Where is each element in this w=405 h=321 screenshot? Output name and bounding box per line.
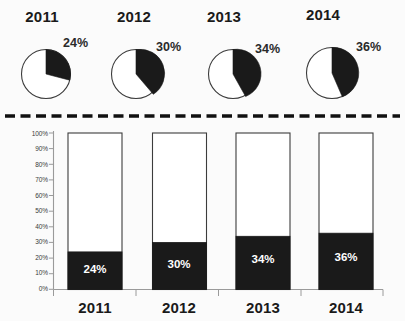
y-axis-ticks bbox=[49, 133, 54, 289]
bar-value-label-2013: 34% bbox=[233, 253, 293, 265]
bar-value-label-2014: 36% bbox=[316, 251, 376, 263]
bar-value-label-2012: 30% bbox=[149, 258, 209, 270]
x-axis-label-2013: 2013 bbox=[228, 299, 298, 316]
x-axis-ticks bbox=[54, 290, 384, 297]
x-axis-label-2014: 2014 bbox=[311, 299, 381, 316]
bar-group-2013 bbox=[236, 133, 290, 290]
stacked-chart-figure: 2011 2012 2013 2014 24% 30% 34% bbox=[0, 0, 405, 321]
bar-value-label-2011: 24% bbox=[65, 263, 125, 275]
x-axis-label-2012: 2012 bbox=[144, 299, 214, 316]
bar-group-2014 bbox=[319, 133, 373, 290]
x-axis-label-2011: 2011 bbox=[60, 299, 130, 316]
